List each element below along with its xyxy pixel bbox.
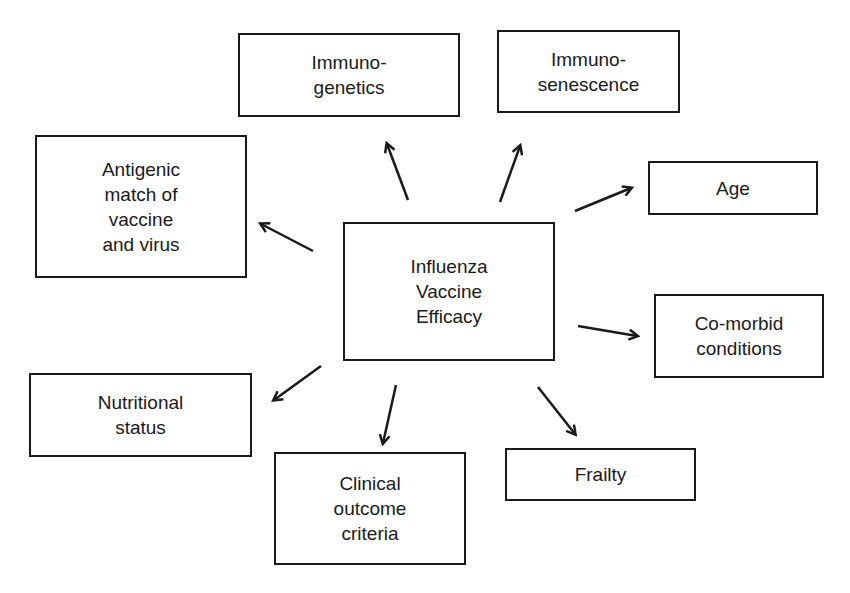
center-label: Influenza Vaccine Efficacy: [410, 254, 487, 329]
arrow-to-immunogenetics: [387, 144, 408, 200]
factor-box-antigenic-match: Antigenic match of vaccine and virus: [35, 135, 247, 278]
factor-label: Co-morbid conditions: [695, 311, 784, 361]
factor-box-nutritional: Nutritional status: [29, 373, 252, 457]
arrow-to-age: [575, 188, 631, 211]
factor-box-immunogenetics: Immuno- genetics: [238, 33, 460, 117]
factor-label: Immuno- senescence: [538, 47, 639, 97]
factor-box-frailty: Frailty: [505, 448, 696, 501]
arrow-to-nutritional: [274, 366, 321, 400]
factor-box-clinical-outcome: Clinical outcome criteria: [274, 452, 466, 565]
center-box-influenza-vaccine-efficacy: Influenza Vaccine Efficacy: [343, 222, 555, 361]
factor-label: Age: [716, 176, 750, 201]
factor-box-comorbid: Co-morbid conditions: [654, 294, 824, 378]
factor-label: Antigenic match of vaccine and virus: [102, 157, 180, 257]
factor-label: Clinical outcome criteria: [334, 471, 407, 546]
arrow-to-antigenic-match: [261, 224, 313, 251]
arrow-to-immunosenescence: [500, 146, 520, 202]
arrow-to-comorbid: [578, 326, 637, 336]
factor-box-age: Age: [648, 161, 818, 215]
arrow-to-clinical-outcome: [383, 385, 396, 443]
arrow-to-frailty: [538, 387, 575, 434]
diagram-canvas: Influenza Vaccine Efficacy Immuno- genet…: [0, 0, 850, 593]
factor-label: Immuno- genetics: [312, 50, 387, 100]
factor-label: Frailty: [575, 462, 627, 487]
factor-label: Nutritional status: [98, 390, 184, 440]
factor-box-immunosenescence: Immuno- senescence: [497, 30, 680, 113]
